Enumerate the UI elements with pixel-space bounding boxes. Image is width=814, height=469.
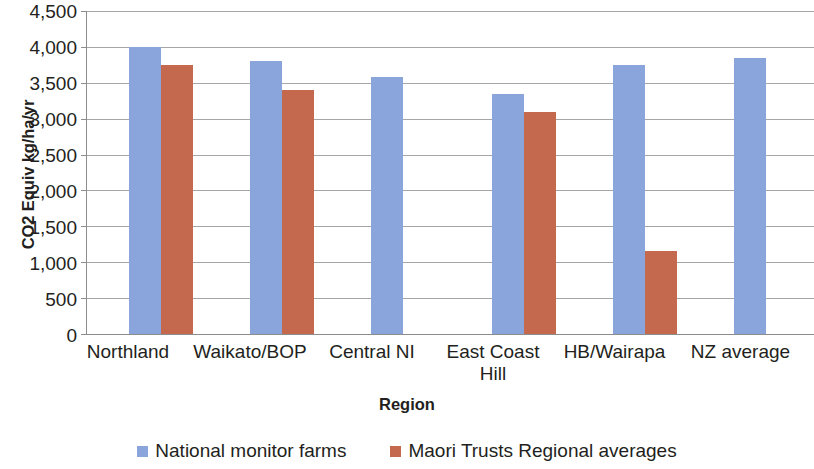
gridline-3500: [87, 83, 814, 84]
bar-central-ni-national: [371, 77, 403, 334]
y-tick-label: 1,000: [0, 254, 77, 273]
legend-label: Maori Trusts Regional averages: [408, 440, 676, 462]
y-tick-4000: [81, 47, 87, 48]
y-tick-label: 4,500: [0, 2, 77, 21]
gridline-500: [87, 298, 814, 299]
y-tick-1000: [81, 262, 87, 263]
gridline-1000: [87, 262, 814, 263]
bar-waikato-bop-maori: [282, 90, 314, 334]
y-tick-2000: [81, 190, 87, 191]
y-tick-label: 4,000: [0, 38, 77, 57]
legend-item-national-monitor-farms: National monitor farms: [137, 440, 346, 462]
y-tick-500: [81, 298, 87, 299]
x-axis-title: Region: [0, 395, 814, 414]
gridline-0: [87, 334, 814, 335]
bar-waikato-bop-national: [250, 61, 282, 334]
x-category-label-waikato-bop: Waikato/BOP: [185, 341, 315, 363]
bar-hb-wairapa-national: [613, 65, 645, 334]
y-tick-1500: [81, 226, 87, 227]
legend-swatch-icon: [137, 446, 148, 457]
x-category-label-line1: East Coast: [447, 341, 540, 362]
y-tick-2500: [81, 155, 87, 156]
gridline-4500: [87, 11, 814, 12]
y-tick-4500: [81, 11, 87, 12]
bar-northland-maori: [161, 65, 193, 334]
x-category-label-east-coast-hill: East Coast Hill: [433, 341, 553, 385]
y-tick-3500: [81, 83, 87, 84]
gridline-2000: [87, 190, 814, 191]
bar-nz-average-national: [734, 58, 766, 334]
bar-hb-wairapa-maori: [645, 251, 677, 334]
y-tick-label: 0: [0, 326, 77, 345]
y-tick-label: 3,000: [0, 110, 77, 129]
y-tick-0: [81, 334, 87, 335]
y-tick-label: 1,500: [0, 218, 77, 237]
bar-northland-national: [129, 47, 161, 334]
y-tick-label: 2,000: [0, 182, 77, 201]
gridline-1500: [87, 226, 814, 227]
legend-swatch-icon: [390, 446, 401, 457]
y-tick-label: 2,500: [0, 146, 77, 165]
x-category-label-hb-wairapa: HB/Wairapa: [552, 341, 677, 363]
bar-chart: CO2 Equiv kg/ha/yr 4,500 4,000 3,500 3,0…: [0, 0, 814, 469]
x-category-label-nz-average: NZ average: [678, 341, 803, 363]
y-tick-label: 500: [0, 290, 77, 309]
bar-east-coast-hill-maori: [524, 112, 556, 335]
bar-east-coast-hill-national: [492, 94, 524, 334]
gridline-2500: [87, 155, 814, 156]
y-tick-3000: [81, 119, 87, 120]
x-category-label-line2: Hill: [480, 363, 506, 384]
gridline-3000: [87, 119, 814, 120]
y-tick-label: 3,500: [0, 74, 77, 93]
legend-item-maori-trusts-regional-averages: Maori Trusts Regional averages: [390, 440, 676, 462]
plot-area: [86, 11, 814, 334]
legend-label: National monitor farms: [155, 440, 346, 462]
y-axis-title: CO2 Equiv kg/ha/yr: [19, 65, 38, 285]
x-category-label-central-ni: Central NI: [312, 341, 432, 363]
gridline-4000: [87, 47, 814, 48]
chart-legend: National monitor farms Maori Trusts Regi…: [0, 440, 814, 462]
x-category-label-northland: Northland: [68, 341, 188, 363]
